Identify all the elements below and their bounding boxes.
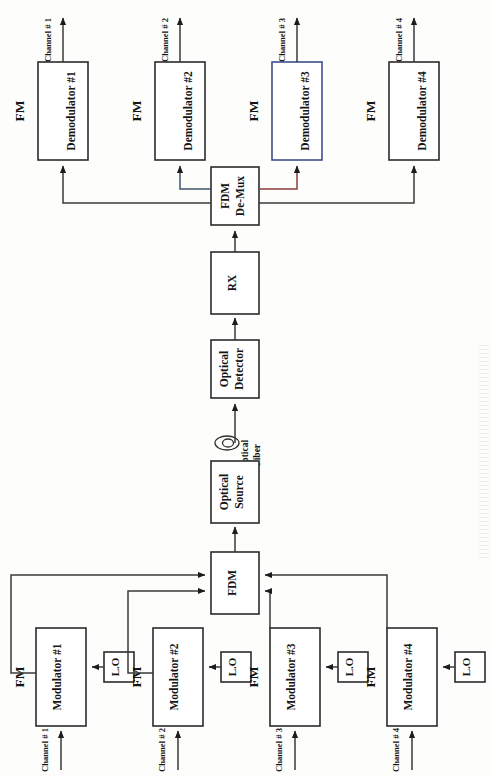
- rx-label: RX: [226, 274, 238, 291]
- demux-to-demod-3-wire: [259, 166, 297, 189]
- demodulator-3-label: Demodulator #3: [299, 71, 311, 151]
- optical-detector-label-line2: Detector: [233, 348, 245, 390]
- demod-4-channel-label: Channel # 4: [394, 17, 404, 62]
- modulator-2-label: Modulator #2: [168, 643, 180, 710]
- optical-detector-label-line1: Optical: [218, 351, 231, 387]
- demux-to-demod-2-wire: [180, 166, 211, 189]
- demodulator-1-label: Demodulator #1: [65, 71, 77, 151]
- demodulator-3-fm-label: FM: [246, 100, 261, 121]
- lo-2-label: L.O: [226, 657, 238, 676]
- modulator-2-channel-label: Channel # 2: [157, 728, 167, 772]
- lo-4-label: L.O: [460, 657, 472, 676]
- demodulator-2-box[interactable]: [155, 62, 205, 160]
- fdm-mux-label: FDM: [226, 570, 238, 596]
- demodulator-2-label: Demodulator #2: [182, 71, 194, 151]
- lo-3-label: L.O: [343, 657, 355, 676]
- modulator-4-channel-label: Channel # 4: [391, 727, 401, 772]
- modulator-4-to-fdm-wire: [265, 575, 387, 629]
- modulator-3-channel-label: Channel # 3: [274, 728, 284, 772]
- modulator-3-label: Modulator #3: [285, 643, 297, 710]
- modulator-1-label: Modulator #1: [51, 643, 63, 710]
- demod-1-channel-label: Channel # 1: [43, 18, 53, 62]
- demux-to-demod-4-wire: [259, 166, 414, 203]
- demodulator-2-fm-label: FM: [129, 100, 144, 121]
- modulator-3-fm-label: FM: [246, 666, 261, 687]
- modulator-3-to-fdm-wire: [265, 591, 270, 629]
- demod-2-channel-label: Channel # 2: [160, 18, 170, 62]
- modulator-1-fm-label: FM: [12, 666, 27, 687]
- modulator-4-label: Modulator #4: [402, 643, 414, 710]
- scan-edge-artifact: [479, 345, 489, 560]
- figure-canvas: Demodulator #1 FM Channel # 1 Demodulato…: [0, 0, 492, 777]
- optical-source-label-line1: Optical: [218, 474, 231, 510]
- modulator-2-fm-label: FM: [129, 666, 144, 687]
- demux-to-demod-1-wire: [63, 166, 211, 203]
- optical-source-label-line2: Source: [233, 475, 245, 509]
- demodulator-4-fm-label: FM: [363, 100, 378, 121]
- modulator-1-channel-label: Channel # 1: [40, 728, 50, 772]
- demodulator-3-box[interactable]: [272, 62, 322, 160]
- fdm-demux-label-line2: De-Mux: [234, 176, 246, 216]
- demodulator-4-box[interactable]: [389, 62, 439, 160]
- demodulator-1-fm-label: FM: [12, 100, 27, 121]
- lo-1-label: L.O: [109, 657, 121, 676]
- block-diagram: Demodulator #1 FM Channel # 1 Demodulato…: [0, 0, 492, 777]
- demodulator-4-label: Demodulator #4: [416, 71, 428, 151]
- fdm-demux-label-line1: FDM: [219, 183, 231, 209]
- modulator-4-fm-label: FM: [363, 666, 378, 687]
- demod-3-channel-label: Channel # 3: [277, 18, 287, 62]
- demodulator-1-box[interactable]: [38, 62, 88, 160]
